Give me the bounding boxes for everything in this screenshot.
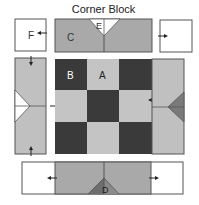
piece-c: C E (55, 19, 152, 52)
piece-right-strip (152, 59, 184, 154)
label-a: A (99, 70, 106, 81)
piece-f: F (15, 19, 47, 51)
checkerboard: B A (55, 59, 152, 154)
piece-left-strip (15, 56, 46, 156)
label-d: D (102, 185, 109, 195)
label-f: F (28, 30, 34, 41)
label-b: B (67, 70, 74, 81)
corner-block-diagram: F C E B A (0, 0, 199, 205)
label-c: C (67, 32, 74, 43)
piece-d: D (22, 162, 183, 195)
label-e: E (96, 21, 102, 31)
piece-top-right (158, 20, 192, 52)
